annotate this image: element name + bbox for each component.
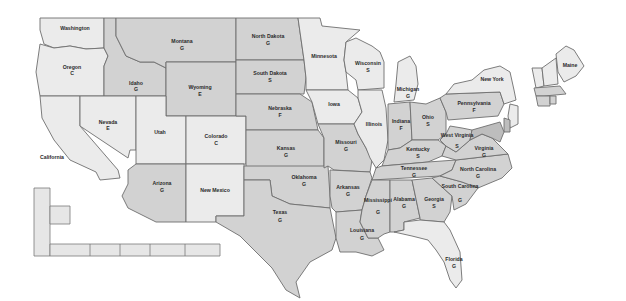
state-label: New Mexico (200, 187, 230, 193)
inset-alaska-box (34, 188, 50, 256)
state-grade: G (278, 217, 282, 223)
state-label: Michigan (397, 86, 419, 92)
state-grade: C (214, 140, 218, 146)
state-grade: G (412, 172, 416, 178)
state-label: Minnesota (311, 53, 337, 59)
state-grade: G (376, 209, 380, 215)
state-grade: G (302, 181, 306, 187)
state-ct[interactable] (536, 96, 550, 106)
us-state-map: WashingtonOregonCCaliforniaIdahoGNevadaE… (0, 0, 626, 301)
state-label: Louisiana (350, 227, 374, 233)
state-label: Washington (60, 25, 90, 31)
state-label: Georgia (424, 196, 444, 202)
state-label: Montana (171, 38, 192, 44)
state-label: South Carolina (442, 183, 479, 189)
state-label: Oklahoma (291, 174, 316, 180)
state-label: Texas (273, 209, 287, 215)
state-grade: E (106, 125, 110, 131)
state-label: North Carolina (460, 166, 496, 172)
state-grade: F (399, 125, 402, 131)
state-de[interactable] (504, 118, 510, 132)
state-grade: G (402, 203, 406, 209)
state-label: Colorado (205, 133, 228, 139)
state-label: Kansas (277, 145, 296, 151)
state-ri[interactable] (550, 96, 556, 104)
state-grade: G (406, 93, 410, 99)
state-label: California (40, 154, 64, 160)
state-nm[interactable] (186, 164, 244, 222)
state-label: North Dakota (252, 33, 285, 39)
state-grade: S (366, 67, 370, 73)
state-label: Florida (445, 256, 462, 262)
state-grade: F (278, 112, 281, 118)
state-label: Wisconsin (355, 60, 381, 66)
inset-islands-strip (50, 244, 220, 256)
state-label: Virginia (475, 145, 494, 151)
state-label: Mississippi (364, 197, 393, 203)
state-label: Wyoming (188, 84, 211, 90)
state-grade: G (482, 152, 486, 158)
state-label: Maine (563, 62, 578, 68)
state-grade: G (344, 146, 348, 152)
state-nd[interactable] (236, 18, 304, 60)
state-grade: G (452, 263, 456, 269)
state-grade: S (268, 77, 272, 83)
state-grade: G (458, 197, 462, 203)
state-grade: S (432, 203, 436, 209)
state-label: Ohio (422, 114, 434, 120)
state-nh[interactable] (542, 58, 558, 86)
state-ne[interactable] (236, 94, 318, 130)
state-label: Utah (154, 129, 166, 135)
state-label: New York (480, 76, 503, 82)
state-label: Illinois (366, 121, 383, 127)
state-ma[interactable] (534, 86, 566, 96)
state-grade: F (472, 107, 475, 113)
state-label: Kentucky (406, 146, 429, 152)
state-label: Arizona (152, 180, 171, 186)
inset-hawaii-box (50, 206, 70, 224)
state-grade: S (455, 143, 459, 149)
state-label: Indiana (392, 118, 410, 124)
state-label: Tennessee (401, 165, 428, 171)
state-fl[interactable] (394, 220, 462, 288)
state-grade: G (360, 235, 364, 241)
state-label: Missouri (335, 139, 357, 145)
state-grade: S (426, 121, 430, 127)
state-grade: S (416, 153, 420, 159)
state-pa[interactable] (440, 92, 504, 120)
state-grade: C (70, 70, 74, 76)
state-label: Iowa (328, 101, 340, 107)
state-grade: G (476, 173, 480, 179)
state-label: Nebraska (268, 105, 291, 111)
state-grade: G (180, 45, 184, 51)
state-label: Pennsylvania (457, 100, 490, 106)
state-az[interactable] (122, 164, 186, 222)
state-wa[interactable] (40, 18, 104, 49)
state-grade: G (346, 191, 350, 197)
state-grade: G (134, 86, 138, 92)
state-label: Alabama (393, 196, 415, 202)
state-label: South Dakota (253, 70, 287, 76)
state-grade: G (160, 187, 164, 193)
state-grade: G (266, 40, 270, 46)
state-grade: G (284, 152, 288, 158)
state-label: Arkansas (336, 184, 359, 190)
state-grade: E (198, 91, 202, 97)
state-label: West Virginia (441, 132, 474, 138)
